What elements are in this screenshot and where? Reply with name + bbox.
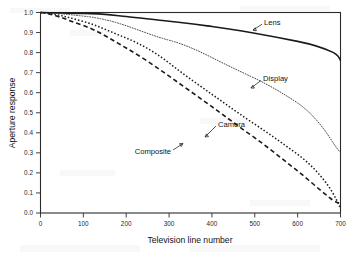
y-tick-label: 0.4 (24, 129, 33, 136)
curve-label-lens: Lens (264, 18, 281, 27)
x-tick-label: 0 (39, 220, 43, 227)
x-tick-label: 500 (249, 220, 260, 227)
curve-label-composite: Composite (135, 147, 171, 156)
curve-label-camera: Camera (218, 120, 246, 129)
y-tick-label: 0.1 (24, 189, 33, 196)
x-tick-label: 200 (121, 220, 132, 227)
y-tick-label: 0.8 (24, 49, 33, 56)
y-tick-label: 0.3 (24, 149, 33, 156)
y-tick-label: 0.2 (24, 169, 33, 176)
x-tick-label: 700 (335, 220, 346, 227)
x-axis-title: Television line number (147, 235, 232, 245)
figure-container: 0.0 0.1 0.2 0.3 0.4 0.5 0.6 0.7 0.8 0.9 … (0, 0, 351, 257)
y-tick-label: 0.6 (24, 89, 33, 96)
y-tick-label: 0.0 (24, 209, 33, 216)
x-tick-label: 600 (292, 220, 303, 227)
x-tick-label: 400 (207, 220, 218, 227)
aperture-response-chart: 0.0 0.1 0.2 0.3 0.4 0.5 0.6 0.7 0.8 0.9 … (0, 0, 351, 257)
y-tick-label: 0.7 (24, 69, 33, 76)
y-axis-title: Aperture response (7, 77, 17, 148)
y-tick-label: 0.9 (24, 29, 33, 36)
y-tick-label: 1.0 (24, 9, 33, 16)
scan-noise (0, 0, 351, 257)
curve-label-display: Display (263, 74, 288, 83)
x-tick-label: 100 (78, 220, 89, 227)
x-tick-label: 300 (164, 220, 175, 227)
y-tick-label: 0.5 (24, 109, 33, 116)
